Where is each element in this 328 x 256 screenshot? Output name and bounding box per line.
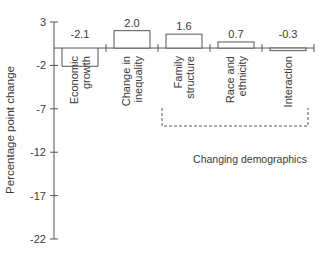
category-label: Family: [172, 56, 184, 89]
value-label: -0.3: [279, 28, 298, 40]
value-label: 2.0: [124, 17, 139, 29]
y-tick-label: -22: [30, 233, 46, 245]
y-tick-label: 3: [40, 16, 46, 28]
y-axis-title: Percentage point change: [4, 66, 16, 194]
value-label: 0.7: [228, 28, 243, 40]
category-label: ethnicity: [236, 56, 248, 97]
category-label: Race and: [224, 56, 236, 103]
value-label: -2.1: [71, 28, 90, 40]
y-tick-label: -2: [36, 59, 46, 71]
bar-chart: 3-2-7-12-17-22 -2.1Economicgrowth2.0Chan…: [0, 0, 328, 256]
category-label: structure: [184, 56, 196, 99]
group-bracket-line: [162, 108, 308, 126]
bar-2: [166, 34, 202, 48]
y-tick-label: -17: [30, 190, 46, 202]
value-label: 1.6: [176, 20, 191, 32]
bar-3: [218, 42, 254, 48]
category-label: Change in: [120, 56, 132, 106]
y-tick-label: -12: [30, 146, 46, 158]
bar-1: [114, 31, 150, 48]
y-tick-label: -7: [36, 103, 46, 115]
category-label: Interaction: [282, 56, 294, 107]
labels: -2.1Economicgrowth2.0Change ininequality…: [68, 17, 297, 108]
category-label: growth: [80, 56, 92, 89]
category-label: inequality: [132, 56, 144, 103]
bar-4: [270, 48, 306, 51]
group-bracket-label: Changing demographics: [193, 153, 307, 165]
group-bracket: [162, 108, 308, 126]
category-label: Economic: [68, 56, 80, 105]
